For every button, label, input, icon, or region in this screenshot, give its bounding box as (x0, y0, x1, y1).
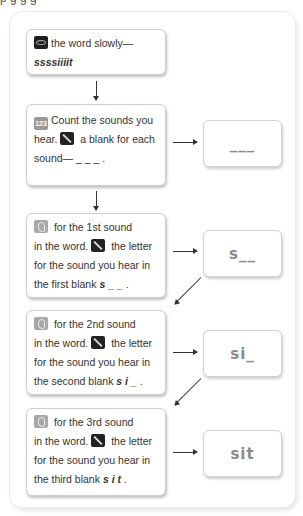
step2-line2-pre: hear. (34, 133, 57, 145)
step5-line4-pre: the third blank (34, 473, 100, 485)
ear-icon (34, 317, 48, 330)
step3-line2-post: the letter (111, 240, 152, 252)
result-sit: sit (203, 430, 282, 477)
step4-line4-pre: the second blank (34, 375, 113, 387)
step3-line3: for the sound you hear in (34, 256, 158, 275)
step-count-sounds: 123Count the sounds you hear. a blank fo… (26, 104, 166, 186)
step5-line3: for the sound you hear in (34, 451, 158, 470)
step-say-word: the word slowly— ssssiiiit (26, 29, 166, 75)
step5-line2-pre: in the word. (34, 435, 88, 447)
result-blanks: ___ (203, 120, 282, 167)
ear-icon (34, 220, 48, 233)
step-first-sound: for the 1st sound in the word. the lette… (26, 213, 166, 298)
step3-line2-pre: in the word. (34, 240, 88, 252)
pencil-icon (60, 132, 74, 145)
pencil-icon (91, 434, 105, 447)
step5-period: . (124, 473, 127, 485)
step5-line2-post: the letter (111, 435, 152, 447)
step3-period: . (126, 278, 129, 290)
step-second-sound: for the 2nd sound in the word. the lette… (26, 310, 166, 395)
numbers-123-icon: 123 (34, 117, 48, 130)
step4-line3: for the sound you hear in (34, 353, 158, 372)
arrow-right-2 (173, 251, 197, 252)
step4-line1: for the 2nd sound (54, 318, 136, 330)
pencil-icon (91, 239, 105, 252)
step-third-sound: for the 3rd sound in the word. the lette… (26, 408, 166, 496)
ear-icon (34, 415, 48, 428)
step2-line1: Count the sounds you (51, 114, 153, 126)
step4-line2-pre: in the word. (34, 337, 88, 349)
arrow-down-2 (96, 191, 97, 210)
step3-partial-word: s _ _ (99, 278, 122, 290)
arrow-down-1 (96, 81, 97, 100)
step3-line1: for the 1st sound (54, 221, 132, 233)
step1-emphasis: ssssiiiit (34, 53, 158, 72)
eye-icon (34, 36, 48, 49)
step4-partial-word: s i _ (116, 375, 136, 387)
step1-text: the word slowly— (51, 37, 133, 49)
pencil-icon (91, 336, 105, 349)
clipped-header-text: p g g g (0, 0, 303, 3)
result-s: s__ (203, 230, 282, 277)
arrow-right-3 (173, 352, 197, 353)
result-si: si_ (203, 330, 282, 377)
step3-line4-pre: the first blank (34, 278, 96, 290)
step5-full-word: s i t (103, 473, 121, 485)
step2-line3: sound— _ _ _ . (34, 149, 158, 168)
step4-period: . (140, 375, 143, 387)
arrow-right-4 (173, 452, 197, 453)
step4-line2-post: the letter (111, 337, 152, 349)
step2-line2-post: a blank for each (80, 133, 155, 145)
arrow-right-1 (173, 142, 197, 143)
step5-line1: for the 3rd sound (54, 416, 133, 428)
